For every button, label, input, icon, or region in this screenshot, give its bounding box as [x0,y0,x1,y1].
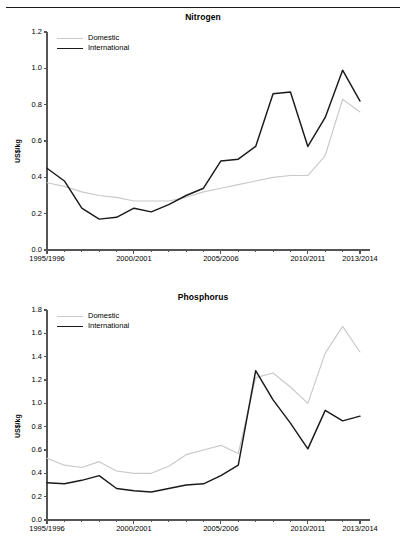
chart-legend: DomesticInternational [57,33,129,53]
y-axis-tick-label: 0.6 [7,137,42,145]
y-axis-tick-label: 0.4 [7,469,42,477]
series-line-domestic [47,99,360,201]
legend-label: International [88,43,129,53]
y-axis-tick-label: 0.8 [7,101,42,109]
x-axis-tick-label: 2000/2001 [104,525,164,533]
legend-label: Domestic [88,33,119,43]
chart-panel-nitrogen: Nitrogen US$/kg 0.00.20.40.60.81.01.2199… [0,8,406,280]
y-axis-tick-label: 0.0 [7,246,42,254]
x-axis-tick-label: 2010/2011 [278,255,338,263]
x-axis-tick-label: 2013/2014 [330,255,390,263]
y-axis-tick-label: 1.0 [7,64,42,72]
y-axis-tick-label: 1.2 [7,376,42,384]
legend-label: International [88,321,129,331]
y-axis-tick-label: 1.0 [7,399,42,407]
legend-swatch-international-icon [57,326,83,327]
y-axis-tick-label: 0.8 [7,423,42,431]
y-axis-tick-label: 0.2 [7,210,42,218]
legend-label: Domestic [88,311,119,321]
y-axis-tick-label: 0.2 [7,493,42,501]
legend-swatch-domestic-icon [57,316,83,317]
chart-title-nitrogen: Nitrogen [0,12,406,22]
x-axis-tick-label: 2000/2001 [104,255,164,263]
legend-item-domestic[interactable]: Domestic [57,311,129,321]
x-axis-tick-label: 1995/1996 [17,525,77,533]
x-axis-tick-label: 2010/2011 [278,525,338,533]
series-line-international [47,70,360,219]
legend-item-international[interactable]: International [57,43,129,53]
legend-swatch-domestic-icon [57,38,83,39]
x-axis-tick-label: 1995/1996 [17,255,77,263]
legend-item-domestic[interactable]: Domestic [57,33,129,43]
y-axis-tick-label: 0.4 [7,173,42,181]
y-axis-tick-label: 0.6 [7,446,42,454]
legend-swatch-international-icon [57,48,83,49]
y-axis-tick-label: 0.0 [7,516,42,524]
chart-legend: DomesticInternational [57,311,129,331]
x-axis-tick-label: 2013/2014 [330,525,390,533]
chart-title-phosphorus: Phosphorus [0,292,406,302]
legend-item-international[interactable]: International [57,321,129,331]
chart-panel-phosphorus: Phosphorus US$/kg 0.00.20.40.60.81.01.21… [0,288,406,550]
y-axis-tick-label: 1.6 [7,329,42,337]
x-axis-tick-label: 2005/2006 [191,255,251,263]
series-line-domestic [47,326,360,473]
y-axis-tick-label: 1.4 [7,353,42,361]
y-axis-tick-label: 1.8 [7,306,42,314]
x-axis-tick-label: 2005/2006 [191,525,251,533]
y-axis-tick-label: 1.2 [7,28,42,36]
